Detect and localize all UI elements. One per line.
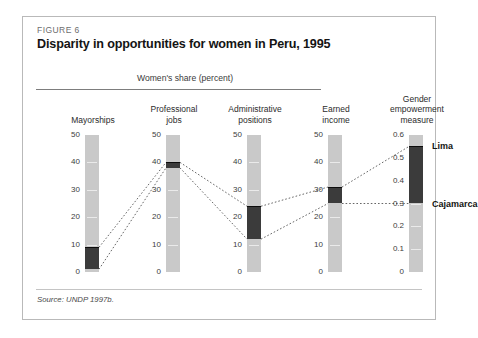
figure-number-label: FIGURE 6: [37, 25, 80, 35]
axis-gridline: [330, 162, 340, 163]
axis-gridline: [87, 190, 97, 191]
axis-tick-label: 10: [303, 241, 323, 249]
axis-gridline: [168, 217, 178, 218]
bar-segment-1: [85, 247, 99, 269]
axis-tick-label: 40: [303, 158, 323, 166]
axis-tick-label: 20: [60, 213, 80, 221]
bar-segment-2: [166, 162, 180, 167]
axis-tick-label: 0.3: [384, 200, 404, 208]
gem-endpoint-label-cajamarca: Cajamarca: [432, 199, 478, 209]
axis-gridline: [249, 190, 259, 191]
axis-gridline: [168, 190, 178, 191]
axis-tick-label: 30: [222, 186, 242, 194]
bar-segment-3: [247, 206, 261, 239]
axis-tick-label: 30: [303, 186, 323, 194]
axis-tick-label: 50: [60, 131, 80, 139]
axis-gridline: [411, 249, 421, 250]
axis-gridline: [249, 245, 259, 246]
axis-tick-label: 0.2: [384, 222, 404, 230]
womens-share-rule: [36, 89, 321, 90]
column-header-line: Earned: [289, 104, 383, 115]
column-header-line: income: [289, 115, 383, 126]
bar-track-3: [247, 135, 261, 272]
axis-tick-label: 10: [60, 241, 80, 249]
column-header-5: Genderempowermentmeasure: [370, 94, 464, 126]
gem-endpoint-label-lima: Lima: [432, 141, 453, 151]
column-header-1: Mayorships: [46, 115, 140, 126]
axis-gridline: [87, 162, 97, 163]
axis-tick-label: 10: [222, 241, 242, 249]
axis-tick-label: 0.5: [384, 154, 404, 162]
axis-tick-label: 0.6: [384, 131, 404, 139]
figure-title: Disparity in opportunities for women in …: [37, 37, 330, 51]
source-note: Source: UNDP 1997b.: [37, 295, 114, 304]
connector-line: [99, 162, 166, 247]
column-header-line: Mayorships: [46, 115, 140, 126]
column-header-line: Professional: [127, 104, 221, 115]
bar-track-2: [166, 135, 180, 272]
axis-tick-label: 0: [222, 268, 242, 276]
axis-gridline: [330, 245, 340, 246]
bar-segment-5: [409, 146, 423, 203]
bar-track-4: [328, 135, 342, 272]
axis-tick-label: 0: [141, 268, 161, 276]
column-header-line: positions: [208, 115, 302, 126]
axis-gridline: [330, 217, 340, 218]
axis-tick-label: 10: [141, 241, 161, 249]
column-header-3: Administrativepositions: [208, 104, 302, 125]
axis-tick-label: 0.1: [384, 245, 404, 253]
axis-tick-label: 50: [141, 131, 161, 139]
axis-tick-label: 40: [60, 158, 80, 166]
axis-tick-label: 20: [222, 213, 242, 221]
axis-tick-label: 0: [60, 268, 80, 276]
axis-gridline: [87, 217, 97, 218]
column-header-line: jobs: [127, 115, 221, 126]
axis-tick-label: 20: [141, 213, 161, 221]
axis-gridline: [411, 226, 421, 227]
bar-segment-4: [328, 187, 342, 203]
axis-tick-label: 0: [384, 268, 404, 276]
axis-tick-label: 40: [222, 158, 242, 166]
axis-gridline: [87, 245, 97, 246]
axis-gridline: [168, 245, 178, 246]
source-text: Source: UNDP 1997b.: [37, 295, 114, 304]
axis-tick-label: 30: [141, 186, 161, 194]
connector-line: [261, 204, 328, 240]
figure-panel: FIGURE 6 Disparity in opportunities for …: [22, 16, 436, 320]
womens-share-caption: Women's share (percent): [37, 73, 333, 83]
column-header-4: Earnedincome: [289, 104, 383, 125]
axis-tick-label: 30: [60, 186, 80, 194]
connector-line: [180, 168, 247, 239]
axis-tick-label: 0: [303, 268, 323, 276]
axis-tick-label: 0.4: [384, 177, 404, 185]
axis-tick-label: 20: [303, 213, 323, 221]
column-header-line: Administrative: [208, 104, 302, 115]
axis-gridline: [249, 162, 259, 163]
column-header-line: Gender: [370, 94, 464, 105]
column-header-2: Professionaljobs: [127, 104, 221, 125]
axis-tick-label: 40: [141, 158, 161, 166]
axis-gridline: [411, 204, 421, 205]
column-header-line: measure: [370, 115, 464, 126]
source-divider: [36, 289, 422, 290]
axis-tick-label: 50: [222, 131, 242, 139]
axis-tick-label: 50: [303, 131, 323, 139]
column-header-line: empowerment: [370, 104, 464, 115]
